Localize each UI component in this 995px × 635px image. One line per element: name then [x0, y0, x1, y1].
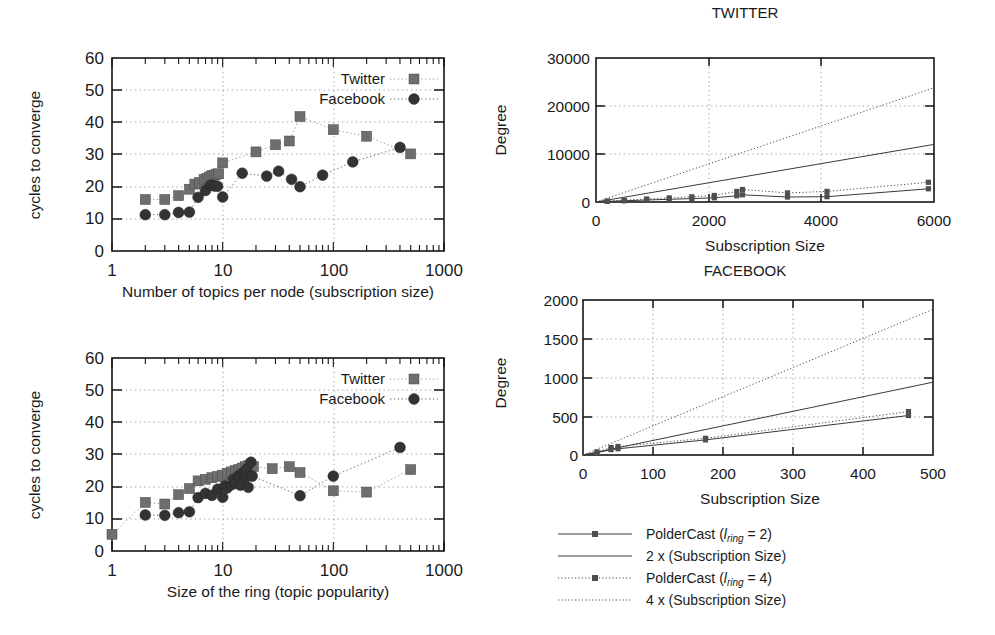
y-axis-label: Degree [492, 358, 509, 409]
gridlines [112, 358, 444, 551]
y-tick-1000: 1000 [544, 370, 579, 387]
x-tick-10: 10 [214, 261, 233, 280]
x-axis-label: Subscription Size [705, 237, 825, 254]
x-tick-200: 200 [710, 465, 736, 482]
legend: Twitter Facebook [319, 70, 438, 107]
x-tick-10: 10 [214, 561, 233, 580]
legend-label: 2 x (Subscription Size) [646, 548, 786, 564]
y-tick-30: 30 [85, 445, 104, 464]
legend-label-facebook: Facebook [319, 90, 385, 107]
legend-label-twitter: Twitter [341, 70, 385, 87]
y-tick-40: 40 [85, 413, 104, 432]
panel-degree-twitter: TWITTER Degree 30000 20000 10000 0 0 200… [480, 0, 995, 270]
chart-degree-facebook: FACEBOOK Degree 2000 1500 1000 500 0 0 [480, 255, 995, 515]
y-tick-0: 0 [581, 194, 590, 211]
legend-marker-square [592, 575, 598, 581]
x-axis-label: Size of the ring (topic popularity) [167, 583, 389, 600]
legend-svg: PolderCast (lring = 2) 2 x (Subscription… [540, 520, 970, 620]
y-tick-500: 500 [552, 409, 578, 426]
legend-marker-facebook [409, 394, 420, 405]
y-tick-50: 50 [85, 381, 104, 400]
y-tick-30000: 30000 [547, 50, 590, 67]
x-tick-2000: 2000 [692, 212, 727, 229]
plot-frame [112, 58, 444, 251]
x-axis-label: Subscription Size [700, 490, 820, 507]
chart-title: FACEBOOK [704, 262, 787, 279]
y-tick-10: 10 [85, 209, 104, 228]
y-tick-30: 30 [85, 145, 104, 164]
x-ticks [112, 358, 444, 551]
y-tick-1500: 1500 [544, 331, 579, 348]
x-tick-1000: 1000 [425, 261, 463, 280]
y-tick-2000: 2000 [544, 292, 579, 309]
x-ticks [112, 58, 444, 251]
plot-frame [112, 358, 444, 551]
legend-label: PolderCast (lring = 4) [646, 570, 772, 588]
y-axis-label: cycles to converge [26, 91, 43, 219]
legend-entry-poldercast-2: PolderCast (lring = 2) [558, 526, 772, 544]
x-tick-100: 100 [640, 465, 666, 482]
legend-label: 4 x (Subscription Size) [646, 592, 786, 608]
chart-convergence-subscription-size: cycles to converge 60 50 40 30 20 10 0 [0, 0, 480, 300]
y-tick-10000: 10000 [547, 146, 590, 163]
y-tick-40: 40 [85, 113, 104, 132]
legend-entry-2x-subscription-size: 2 x (Subscription Size) [558, 548, 786, 564]
series-twitter [140, 112, 415, 205]
y-tick-10: 10 [85, 509, 104, 528]
legend-label: PolderCast (lring = 2) [646, 526, 772, 544]
chart-convergence-ring-size: cycles to converge 60 50 40 30 20 10 0 1 [0, 300, 480, 600]
legend-label-twitter: Twitter [341, 370, 385, 387]
legend-marker-twitter [409, 74, 419, 84]
y-tick-60: 60 [85, 349, 104, 368]
x-axis-label: Number of topics per node (subscription … [122, 283, 434, 300]
y-tick-20000: 20000 [547, 98, 590, 115]
axis-ticks [596, 58, 934, 202]
y-axis-label: cycles to converge [26, 391, 43, 519]
gridlines [112, 58, 444, 251]
legend-entry-4x-subscription-size: 4 x (Subscription Size) [558, 592, 786, 608]
x-tick-1: 1 [107, 561, 116, 580]
chart-title: TWITTER [712, 4, 779, 21]
x-tick-4000: 4000 [804, 212, 839, 229]
legend-entry-poldercast-4: PolderCast (lring = 4) [558, 570, 772, 588]
legend-marker-twitter [409, 374, 419, 384]
series-twitter [107, 460, 416, 540]
y-tick-0: 0 [95, 542, 104, 561]
figure-legend: PolderCast (lring = 2) 2 x (Subscription… [540, 520, 970, 620]
y-tick-0: 0 [95, 242, 104, 261]
y-tick-20: 20 [85, 477, 104, 496]
x-tick-400: 400 [850, 465, 876, 482]
x-tick-6000: 6000 [917, 212, 952, 229]
x-tick-100: 100 [320, 261, 348, 280]
chart-degree-twitter: TWITTER Degree 30000 20000 10000 0 0 200… [480, 0, 995, 270]
panel-convergence-subscription-size: cycles to converge 60 50 40 30 20 10 0 [0, 0, 480, 300]
legend-label-facebook: Facebook [319, 390, 385, 407]
x-tick-0: 0 [579, 465, 588, 482]
x-tick-300: 300 [780, 465, 806, 482]
panel-convergence-ring-size: cycles to converge 60 50 40 30 20 10 0 1 [0, 300, 480, 600]
x-tick-100: 100 [320, 561, 348, 580]
series-lines [596, 88, 934, 204]
x-tick-1: 1 [107, 261, 116, 280]
legend-marker-facebook [409, 94, 420, 105]
gridlines [596, 58, 934, 202]
x-tick-500: 500 [920, 465, 946, 482]
plot-frame [596, 58, 934, 202]
panel-degree-facebook: FACEBOOK Degree 2000 1500 1000 500 0 0 [480, 255, 995, 515]
y-tick-60: 60 [85, 49, 104, 68]
y-axis-label: Degree [492, 105, 509, 156]
legend-marker-square [592, 531, 598, 537]
series-lines [583, 309, 933, 455]
y-tick-0: 0 [569, 447, 578, 464]
y-tick-20: 20 [85, 177, 104, 196]
y-tick-50: 50 [85, 81, 104, 100]
x-tick-0: 0 [592, 212, 601, 229]
x-tick-1000: 1000 [425, 561, 463, 580]
legend: Twitter Facebook [319, 370, 438, 407]
